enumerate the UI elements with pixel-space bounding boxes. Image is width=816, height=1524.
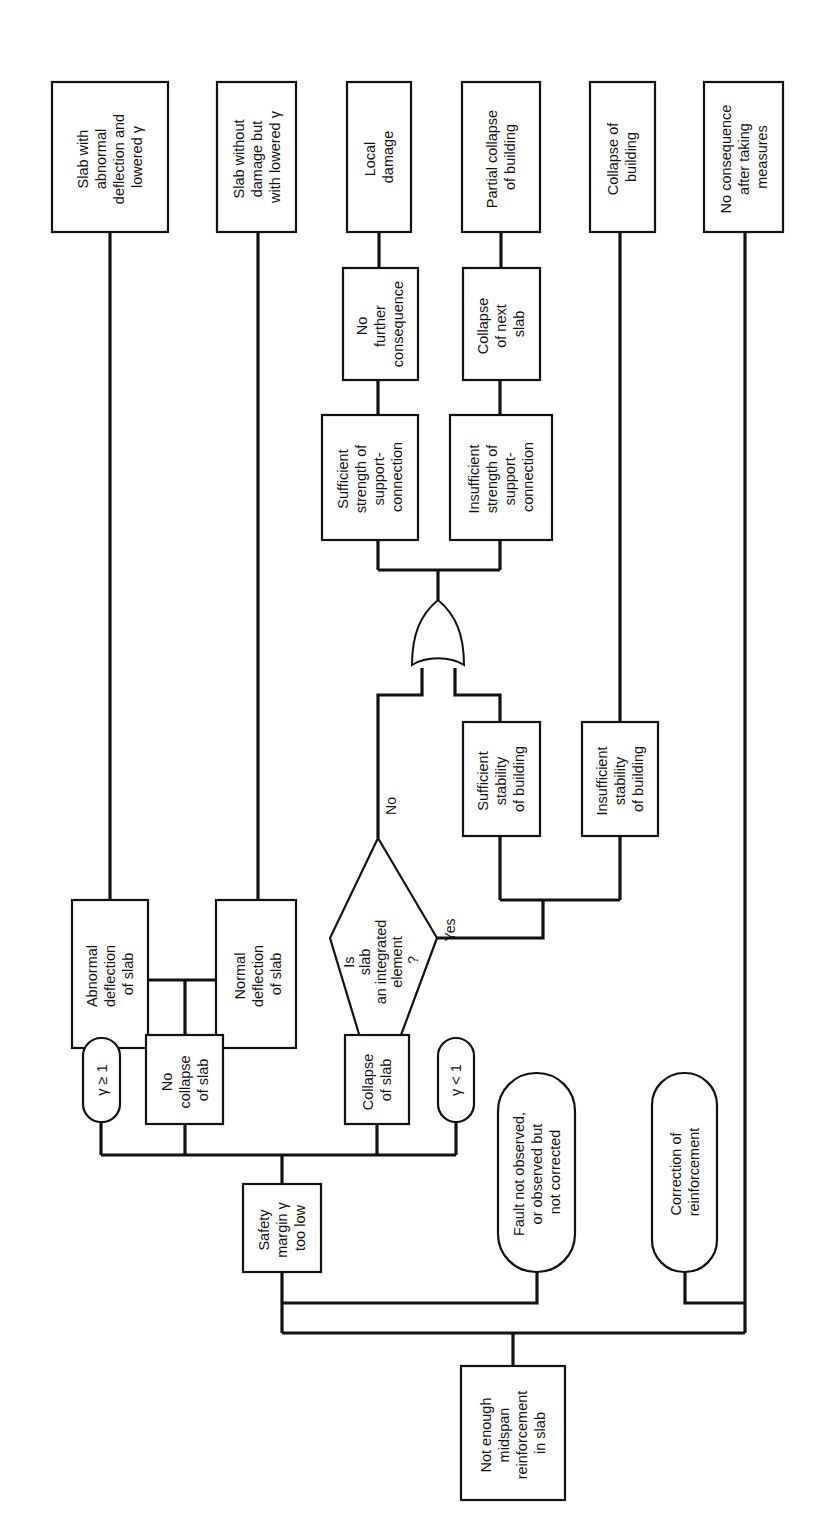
branch-correction: Correction of reinforcement: [652, 1073, 717, 1272]
node-collapse-next-slab: Collapse of next slab: [463, 268, 540, 380]
svg-text:Slab without damage but: Slab without damage but with lowered γ: [231, 110, 283, 204]
node-collapse-slab: Collapse of slab: [345, 1035, 409, 1124]
svg-text:γ < 1: γ < 1: [448, 1064, 464, 1096]
node-sufficient-stability: Sufficient stability of building: [463, 722, 540, 836]
node-no-further-consequence: No further consequence: [343, 268, 418, 380]
node-sufficient-strength: Sufficient strength of support- connecti…: [322, 415, 418, 540]
outcome-slab-without-damage: Slab without damage but with lowered γ: [217, 82, 296, 232]
svg-text:Insufficient stability: Insufficient stability of building: [594, 742, 646, 815]
branch-fault-not-observed: Fault not observed, or observed but not …: [498, 1073, 575, 1272]
node-safety-margin: Safety margin γ too low: [243, 1184, 321, 1272]
node-insufficient-stability: Insufficient stability of building: [582, 722, 658, 836]
outcome-slab-abnormal: Slab with abnormal deflection and lowere…: [52, 82, 168, 232]
condition-gamma-lt-1: γ < 1: [438, 1038, 474, 1122]
outcome-collapse-building: Collapse of building: [590, 82, 655, 232]
no-label: No: [383, 797, 399, 815]
outcome-local-damage: Local damage: [347, 82, 411, 232]
outcome-partial-collapse: Partial collapse of building: [462, 82, 540, 232]
svg-text:Sufficient stability: Sufficient stability of building: [475, 746, 527, 812]
outcome-no-consequence: No consequence after taking measures: [704, 82, 783, 232]
condition-gamma-ge-1: γ ≥ 1: [83, 1038, 120, 1122]
node-abnormal-deflection: Abnormal deflection of slab: [72, 900, 148, 1048]
node-insufficient-strength: Insufficient strength of support- connec…: [450, 415, 552, 540]
node-normal-deflection: Normal deflection of slab: [216, 900, 296, 1048]
root-not-enough-reinforcement: Not enough midspan reinforcement in slab: [461, 1366, 565, 1500]
yes-label: Yes: [442, 919, 458, 942]
node-no-collapse-slab: No collapse of slab: [146, 1035, 223, 1124]
or-gate-icon: [412, 600, 464, 665]
svg-text:γ ≥ 1: γ ≥ 1: [94, 1064, 110, 1095]
flowchart-canvas: Slab with abnormal deflection and lowere…: [0, 0, 816, 1524]
svg-text:Safety margin γ to: Safety margin γ too low: [256, 1198, 308, 1258]
